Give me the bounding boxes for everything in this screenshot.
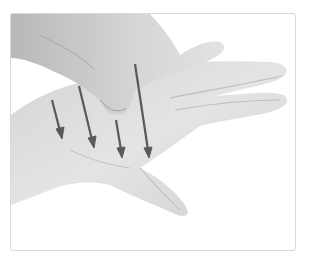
hand-massage-photo <box>0 0 309 256</box>
receiving-hand <box>11 61 287 216</box>
